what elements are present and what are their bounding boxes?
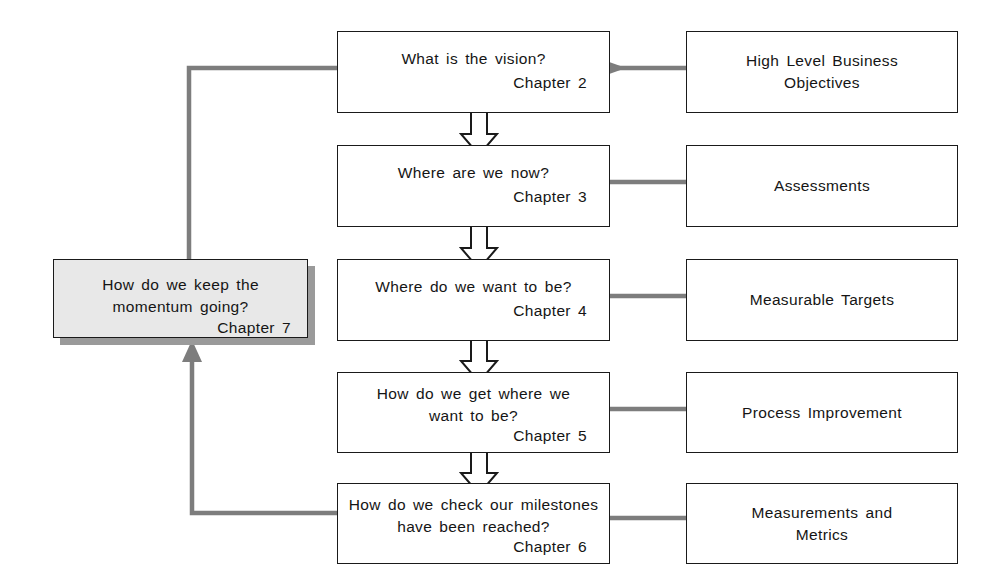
detail-box-5-content: Measurements and Metrics xyxy=(687,501,957,546)
stage-box-3-question: Where do we want to be? xyxy=(346,276,601,298)
stage-box-4-chapter: Chapter 5 xyxy=(346,427,601,445)
detail-box-1[interactable]: High Level Business Objectives xyxy=(686,31,958,113)
stage-box-1-chapter: Chapter 2 xyxy=(346,74,601,92)
stage-box-2-question: Where are we now? xyxy=(346,162,601,184)
detail-box-4-label: Process Improvement xyxy=(695,401,949,423)
detail-box-2-content: Assessments xyxy=(687,175,957,197)
loop-box-chapter: Chapter 7 xyxy=(62,319,299,337)
detail-box-2[interactable]: Assessments xyxy=(686,145,958,227)
loop-box-momentum[interactable]: How do we keep the momentum going? Chapt… xyxy=(53,259,308,338)
detail-box-3-content: Measurable Targets xyxy=(687,289,957,311)
detail-box-5-label: Measurements and Metrics xyxy=(695,501,949,546)
detail-box-1-content: High Level Business Objectives xyxy=(687,50,957,95)
detail-box-4-content: Process Improvement xyxy=(687,401,957,423)
stage-box-1-question: What is the vision? xyxy=(346,48,601,70)
stage-box-1-content: What is the vision? Chapter 2 xyxy=(338,32,609,92)
stage-box-3-chapter: Chapter 4 xyxy=(346,302,601,320)
stage-to-detail-links xyxy=(610,68,686,518)
flowchart-canvas: What is the vision? Chapter 2 Where are … xyxy=(0,0,986,585)
detail-box-5[interactable]: Measurements and Metrics xyxy=(686,483,958,564)
loop-box-question: How do we keep the momentum going? xyxy=(62,274,299,318)
stage-box-1[interactable]: What is the vision? Chapter 2 xyxy=(337,31,610,113)
loop-box-content: How do we keep the momentum going? Chapt… xyxy=(54,260,307,337)
detail-box-3-label: Measurable Targets xyxy=(695,289,949,311)
stage-box-2-content: Where are we now? Chapter 3 xyxy=(338,146,609,206)
stage-box-2-chapter: Chapter 3 xyxy=(346,188,601,206)
detail-box-3[interactable]: Measurable Targets xyxy=(686,259,958,341)
detail-box-2-label: Assessments xyxy=(695,175,949,197)
detail-box-1-label: High Level Business Objectives xyxy=(695,50,949,95)
stage-box-3[interactable]: Where do we want to be? Chapter 4 xyxy=(337,259,610,341)
stage-box-5-question: How do we check our milestones have been… xyxy=(346,494,601,538)
stage-box-5[interactable]: How do we check our milestones have been… xyxy=(337,483,610,564)
stage-box-2[interactable]: Where are we now? Chapter 3 xyxy=(337,145,610,227)
stage-box-4-question: How do we get where we want to be? xyxy=(346,383,601,427)
stage-box-4[interactable]: How do we get where we want to be? Chapt… xyxy=(337,372,610,453)
stage-box-4-content: How do we get where we want to be? Chapt… xyxy=(338,373,609,445)
detail-box-4[interactable]: Process Improvement xyxy=(686,372,958,453)
stage-box-3-content: Where do we want to be? Chapter 4 xyxy=(338,260,609,320)
stage-box-5-content: How do we check our milestones have been… xyxy=(338,484,609,556)
feedback-loop-bottom-connector xyxy=(182,340,337,513)
stage-box-5-chapter: Chapter 6 xyxy=(346,538,601,556)
